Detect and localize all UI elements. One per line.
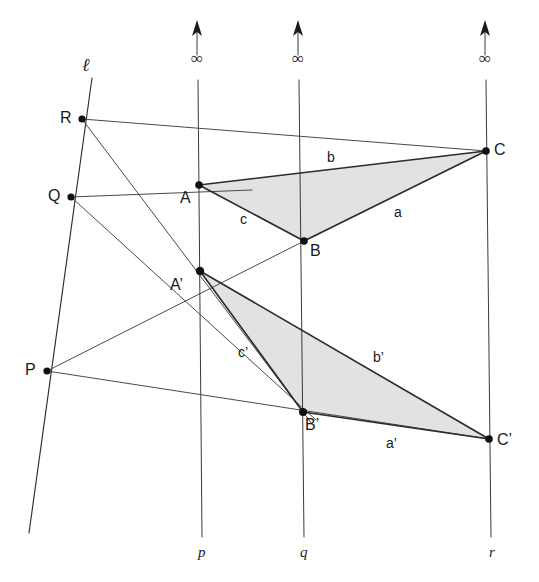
side-label-c: c	[240, 212, 247, 226]
side-label-c-prime: c’	[238, 345, 248, 359]
axis-line-ell	[29, 78, 92, 533]
pencil-line-r-a-c	[82, 119, 486, 151]
line-name-label-r: r	[489, 545, 495, 560]
vertex-dot-A	[195, 181, 203, 189]
point-label-C-prime: C’	[497, 432, 512, 448]
vertex-dot-R	[78, 115, 85, 122]
infinity-label-q: ∞	[292, 50, 304, 67]
line-q-lower-segment	[299, 80, 304, 537]
point-label-A: A	[180, 190, 191, 206]
point-label-Q: Q	[48, 188, 60, 204]
point-label-B-prime: B’	[305, 417, 319, 433]
vertex-dot-P	[43, 367, 50, 374]
side-label-a: a	[394, 205, 402, 219]
vertex-dot-Q	[67, 193, 74, 200]
desargues-figure: R Q P A B C A’ B’ C’ a b c a’ b’ c’ ∞ ∞ …	[0, 0, 539, 582]
vertex-dot-A2	[196, 267, 204, 275]
infinity-label-r: ∞	[479, 50, 491, 67]
line-p-lower-segment	[198, 80, 202, 537]
vertex-dot-C2	[485, 435, 493, 443]
triangle-abc-fill	[199, 151, 486, 241]
point-label-A-prime: A’	[170, 277, 183, 293]
point-label-B: B	[310, 243, 321, 259]
pencil-line-q-b	[71, 197, 316, 420]
side-label-b: b	[327, 150, 335, 164]
vertical-line-q	[293, 20, 304, 537]
side-label-b-prime: b’	[373, 350, 384, 364]
point-label-C: C	[494, 142, 506, 158]
line-name-label-p: p	[198, 545, 206, 560]
axis-line-label-ell: ℓ	[82, 56, 90, 74]
point-label-R: R	[60, 110, 72, 126]
figure-canvas	[0, 0, 539, 582]
vertical-line-p	[192, 20, 202, 537]
point-label-P: P	[25, 362, 36, 378]
vertical-line-r	[480, 20, 491, 537]
vertex-dot-B2	[299, 408, 307, 416]
vertex-dot-C	[482, 147, 490, 155]
line-name-label-q: q	[300, 545, 308, 560]
vertex-dot-B	[300, 237, 308, 245]
infinity-label-p: ∞	[191, 50, 203, 67]
side-label-a-prime: a’	[386, 436, 397, 450]
